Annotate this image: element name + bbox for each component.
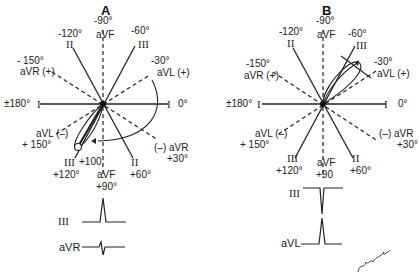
signature-icon (358, 250, 390, 272)
label-ll-lead: aVL (–) (255, 128, 287, 139)
tracing-lead-iii (303, 188, 343, 214)
label-bl-lead: III (64, 156, 75, 168)
label-ll-lead: aVL (–) (36, 128, 68, 139)
label-ul-lead: II (66, 38, 74, 50)
label-b-angle: +90° (96, 181, 117, 192)
label-b-lead: aVF (317, 157, 335, 168)
label-lr-angle: +30° (397, 139, 418, 150)
label-b-angle: +90 (316, 169, 333, 180)
label-b-lead: aVF (97, 169, 115, 180)
label-left-lead: I (37, 98, 41, 110)
tracing-lead-iii-label: III (289, 187, 300, 199)
label-right-lead: I (384, 98, 388, 110)
vector-loop (323, 56, 371, 104)
tracing-lead-iii-label: III (58, 215, 69, 227)
vector-loop (75, 80, 158, 151)
label-br-angle: +60° (130, 169, 151, 180)
label-br-lead: II (352, 152, 360, 164)
label-bl-angle: +120° (53, 169, 80, 180)
tracing-avl (301, 218, 342, 244)
tracing-avr (82, 242, 125, 255)
label-ll-angle: + 150° (22, 139, 51, 150)
label-right-angle: 0° (178, 98, 188, 109)
label-br-angle: +60° (350, 165, 371, 176)
label-axis-value: +100 (79, 156, 102, 167)
label-top-lead: aVF (317, 29, 335, 40)
label-left-axis: ±180° (226, 98, 252, 109)
label-ur-angle: -60° (131, 25, 149, 36)
label-ur-lead: III (356, 39, 367, 51)
label-ur-lead: III (138, 38, 149, 50)
tracing-lead-iii (82, 198, 126, 222)
panel-b: B -90° aVF -120° II -60° III -150° aVR (… (226, 3, 418, 272)
tracing-avr-label: aVR (59, 241, 80, 253)
center-point (320, 101, 326, 107)
avl-axis (277, 71, 376, 135)
label-l-lead: aVR (+) (244, 70, 279, 81)
label-bl-angle: +120° (276, 165, 303, 176)
label-ll-angle: + 150° (240, 139, 269, 150)
label-r-lead: aVL (+) (377, 68, 410, 79)
label-r-lead: aVL (+) (157, 67, 190, 78)
label-top-angle: -90° (316, 15, 334, 26)
label-ul-lead: II (287, 37, 295, 49)
label-l-lead: aVR (+) (20, 66, 55, 77)
label-right-lead: I (167, 98, 171, 110)
label-left-axis: ±180° (4, 98, 30, 109)
label-r-angle: -30° (151, 55, 169, 66)
tracing-avl-label: aVL (281, 237, 301, 249)
label-top-angle: -90° (94, 15, 112, 26)
hexaxial-diagram: A -90° aVF -120° II -60° III - 150° aVR (0, 0, 419, 278)
label-top-lead: aVF (96, 29, 114, 40)
label-lr-lead: (–) aVR (379, 128, 413, 139)
label-bl-lead: III (287, 152, 298, 164)
label-lr-lead: (–) aVR (154, 142, 188, 153)
label-left-lead: I (257, 98, 261, 110)
label-l-angle: -150° (246, 58, 270, 69)
center-point (100, 101, 106, 107)
label-ul-angle: -120° (279, 26, 303, 37)
label-ur-angle: -60° (348, 28, 366, 39)
label-br-lead: II (131, 156, 139, 168)
label-r-angle: -30° (374, 56, 392, 67)
label-lr-angle: +30° (167, 153, 188, 164)
label-right-angle: 0° (398, 98, 408, 109)
label-l-angle: - 150° (17, 55, 44, 66)
panel-a: A -90° aVF -120° II -60° III - 150° aVR (4, 3, 190, 255)
